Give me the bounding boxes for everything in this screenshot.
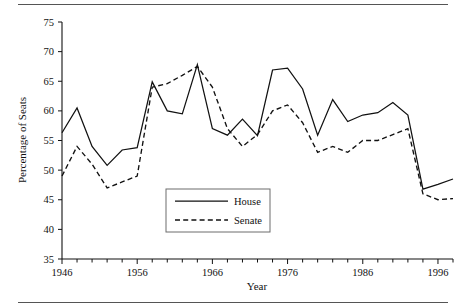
x-tick-label: 1966 bbox=[202, 267, 223, 278]
y-axis-group: 354045505560657075 bbox=[44, 17, 63, 265]
y-axis-title: Percentage of Seats bbox=[16, 97, 28, 183]
y-axis-tick-labels: 354045505560657075 bbox=[44, 17, 55, 265]
y-tick-label: 70 bbox=[44, 46, 55, 57]
y-tick-label: 35 bbox=[44, 254, 55, 265]
series-line-house bbox=[62, 65, 453, 189]
figure-container: 354045505560657075 194619561966197619861… bbox=[0, 0, 463, 307]
x-axis-tick-labels: 194619561966197619861996 bbox=[52, 267, 449, 278]
y-tick-label: 55 bbox=[44, 135, 55, 146]
chart-plot-area: 354045505560657075 194619561966197619861… bbox=[0, 0, 463, 307]
x-tick-label: 1956 bbox=[127, 267, 148, 278]
line-chart-svg: 354045505560657075 194619561966197619861… bbox=[0, 0, 463, 307]
y-tick-label: 75 bbox=[44, 17, 55, 28]
x-tick-label: 1946 bbox=[52, 267, 73, 278]
legend-label-house: House bbox=[234, 196, 261, 207]
y-tick-label: 50 bbox=[44, 165, 55, 176]
x-tick-label: 1996 bbox=[427, 267, 448, 278]
legend-label-senate: Senate bbox=[234, 215, 262, 226]
y-tick-label: 65 bbox=[44, 76, 55, 87]
y-axis-ticks bbox=[58, 22, 62, 259]
x-tick-label: 1976 bbox=[277, 267, 298, 278]
x-axis-title: Year bbox=[247, 280, 268, 292]
y-tick-label: 60 bbox=[44, 105, 55, 116]
x-tick-label: 1986 bbox=[352, 267, 373, 278]
x-axis-ticks bbox=[62, 259, 453, 264]
x-axis-group: 194619561966197619861996 bbox=[52, 259, 454, 278]
chart-legend: House Senate bbox=[166, 189, 270, 232]
y-tick-label: 45 bbox=[44, 194, 55, 205]
y-tick-label: 40 bbox=[44, 224, 55, 235]
